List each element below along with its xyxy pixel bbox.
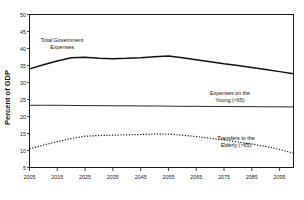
x-tick-label: 2015: [51, 174, 63, 180]
x-tick-label: 2005: [24, 174, 36, 180]
chart-annotations: Total GovernmentExpensesExpenses on theY…: [41, 37, 255, 148]
x-tick-label: 2035: [107, 174, 119, 180]
annotation-line: Expenses: [50, 44, 74, 50]
y-tick-label: 20: [20, 114, 26, 120]
y-tick-label: 10: [20, 148, 26, 154]
y-axis-title: Percent of GDP: [3, 70, 12, 125]
chart-container: Percent of GDP 5101520253035404550 20052…: [0, 0, 304, 200]
y-axis-ticks: 5101520253035404550: [20, 12, 30, 171]
annotation-line: Expenses on the: [210, 90, 250, 96]
y-tick-label: 45: [20, 29, 26, 35]
y-tick-label: 40: [20, 46, 26, 52]
x-tick-label: 2095: [274, 174, 286, 180]
x-axis-ticks: 2005201520252035204520552065207520852095: [24, 168, 286, 180]
series-line-total-government-expenses: [30, 56, 294, 74]
y-tick-label: 50: [20, 12, 26, 18]
top-note: [0, 0, 304, 9]
annotation-total-government-expenses: Total GovernmentExpenses: [41, 37, 84, 50]
y-tick-label: 15: [20, 131, 26, 137]
annotation-line: Transfers to the: [217, 135, 255, 141]
x-tick-label: 2045: [135, 174, 147, 180]
y-tick-label: 35: [20, 63, 26, 69]
x-tick-label: 2055: [162, 174, 174, 180]
annotation-line: Elderly (>65): [221, 142, 252, 148]
annotation-line: Young (<65): [215, 97, 245, 103]
y-tick-label: 5: [23, 165, 26, 171]
gdp-expenses-line-chart: Percent of GDP 5101520253035404550 20052…: [0, 0, 304, 200]
annotation-expenses-on-the-young: Expenses on theYoung (<65): [210, 90, 250, 103]
series-line-expenses-on-the-young-65: [30, 105, 294, 107]
y-tick-label: 30: [20, 80, 26, 86]
annotation-line: Total Government: [41, 37, 84, 43]
x-tick-label: 2065: [190, 174, 202, 180]
x-tick-label: 2075: [218, 174, 230, 180]
x-tick-label: 2085: [246, 174, 258, 180]
y-axis-title-group: Percent of GDP: [3, 70, 12, 125]
annotation-transfers-to-the-elderly: Transfers to theElderly (>65): [217, 135, 255, 148]
y-tick-label: 25: [20, 97, 26, 103]
x-tick-label: 2025: [79, 174, 91, 180]
